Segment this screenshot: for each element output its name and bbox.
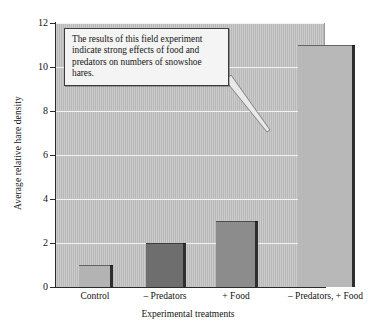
x-axis-tick-label: – Predators, + Food [266,291,368,301]
gridline [56,23,324,24]
bar-top-edge [79,265,113,266]
y-axis-tick-label: 4 [4,194,48,204]
y-axis-line [55,22,56,288]
gridline [56,199,324,200]
x-axis-tick-labels: Control– Predators+ Food– Predators, + F… [50,291,326,307]
y-axis-tick-label: 6 [4,150,48,160]
bar-side-edge [255,221,258,287]
bar [146,243,186,287]
y-axis-tick [50,199,55,200]
gridline [56,155,324,156]
bar-face [146,243,183,287]
bar-top-edge [146,243,186,244]
y-axis-tick-label: 12 [4,18,48,28]
bar-face [79,265,110,287]
y-axis-tick-label: 8 [4,106,48,116]
y-axis-tick [50,287,55,288]
callout-text: The results of this field experiment ind… [72,34,202,78]
bar [79,265,113,287]
y-axis-tick-label: 2 [4,238,48,248]
bar-top-edge [298,45,355,46]
y-axis-tick [50,67,55,68]
gridline [56,243,324,244]
y-axis-tick [50,23,55,24]
bar [216,221,258,287]
y-axis-tick-labels: 024681012 [0,0,48,330]
callout-box: The results of this field experiment ind… [64,28,229,86]
bar-side-edge [352,45,355,287]
gridline [56,111,324,112]
y-axis-tick-label: 10 [4,62,48,72]
bar-side-edge [110,265,113,287]
y-axis-tick [50,111,55,112]
y-axis-tick [50,243,55,244]
bar [298,45,355,287]
bar-face [216,221,255,287]
bar-side-edge [183,243,186,287]
bar-top-edge [216,221,258,222]
y-axis-tick [50,155,55,156]
x-axis-title: Experimental treatments [50,309,326,319]
bar-face [298,45,352,287]
x-axis-line [50,287,326,288]
